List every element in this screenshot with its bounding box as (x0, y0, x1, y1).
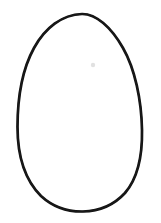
canvas-background (0, 0, 161, 223)
egg-drawing-svg (0, 0, 161, 223)
faint-ink-speck (91, 63, 95, 67)
drawing-canvas: Egg Outline Drawing A single hand-drawn … (0, 0, 161, 223)
